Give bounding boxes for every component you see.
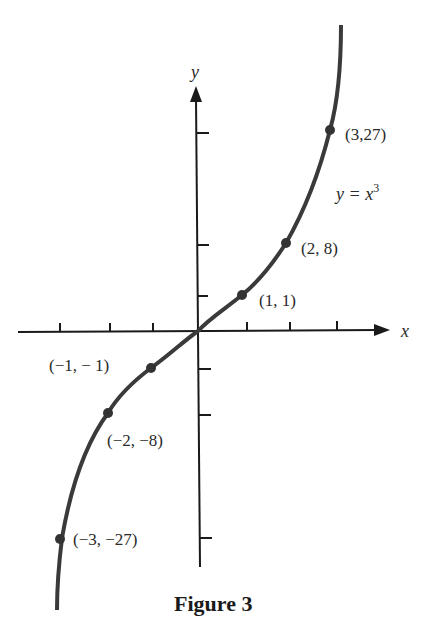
label-2-8: (2, 8) xyxy=(301,239,338,258)
label-neg1-neg1: (−1, − 1) xyxy=(49,356,109,375)
label-neg3-neg27: (−3, −27) xyxy=(73,530,138,549)
y-axis-arrow-icon xyxy=(190,86,202,102)
point-neg1-neg1 xyxy=(146,363,156,373)
point-2-8 xyxy=(281,238,291,248)
point-neg2-neg8 xyxy=(103,408,113,418)
equation-base: y = x xyxy=(334,184,373,204)
point-neg3-neg27 xyxy=(55,534,65,544)
equation-exponent: 3 xyxy=(373,181,379,195)
figure-caption: Figure 3 xyxy=(174,591,252,616)
point-1-1 xyxy=(237,290,247,300)
cubic-function-figure: x y (3,27) (2, 8) (1, 1) (−1, − 1) (−2, … xyxy=(0,0,439,629)
label-1-1: (1, 1) xyxy=(259,291,296,310)
label-neg2-neg8: (−2, −8) xyxy=(107,431,163,450)
equation-label: y = x3 xyxy=(334,181,379,204)
label-3-27: (3,27) xyxy=(345,125,386,144)
y-axis-label: y xyxy=(189,62,199,82)
point-3-27 xyxy=(325,125,335,135)
x-axis-arrow-icon xyxy=(374,324,390,336)
x-axis-label: x xyxy=(400,321,409,341)
